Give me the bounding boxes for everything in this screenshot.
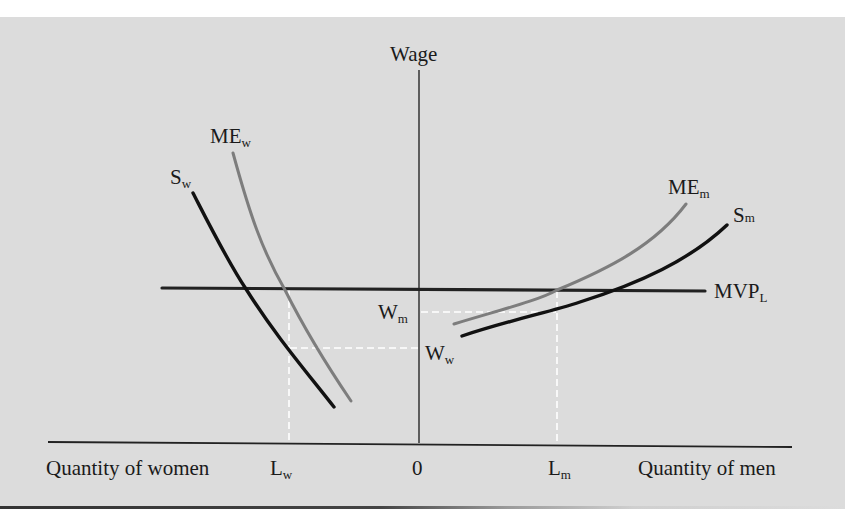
bottom-rule [0, 506, 845, 509]
quantity-of-men-label: Quantity of men [638, 458, 776, 479]
l-w-label: Lw [270, 458, 292, 479]
w-w-label: Ww [425, 343, 454, 364]
wage-axis-label: Wage [390, 44, 437, 65]
mvp-l-label: MVPL [714, 281, 767, 302]
me-w-label: MEw [210, 126, 251, 147]
diagram-plot [0, 0, 845, 510]
labor-market-discrimination-diagram: Wage MEw Sw MEm Sm MVPL Wm Ww Quantity o… [0, 0, 845, 510]
me-m-label: MEm [668, 177, 710, 198]
s-w-label: Sw [170, 167, 191, 188]
quantity-of-women-label: Quantity of women [46, 458, 209, 479]
s-w-curve [193, 193, 334, 407]
s-m-curve [462, 225, 727, 336]
w-m-label: Wm [378, 302, 408, 323]
origin-label: 0 [412, 458, 423, 479]
s-m-label: Sm [733, 205, 755, 226]
l-m-label: Lm [548, 458, 571, 479]
me-w-curve [233, 153, 351, 401]
quantity-axis [48, 442, 792, 447]
